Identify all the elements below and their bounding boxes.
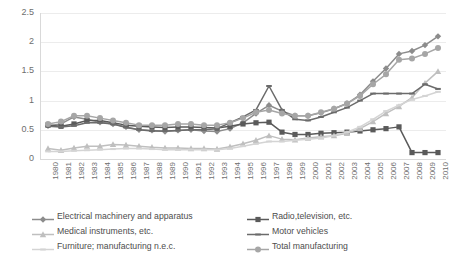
- legend-item[interactable]: Motor vehicles: [247, 226, 328, 237]
- legend-marker-icon: [32, 241, 54, 252]
- legend-item-label: Total manufacturing: [272, 241, 348, 252]
- x-axis-tick-label: 1983: [91, 162, 99, 180]
- legend-marker-icon: [247, 211, 269, 222]
- legend-marker-icon: [32, 211, 54, 222]
- x-axis-tick-label: 1996: [260, 162, 268, 180]
- x-axis-tick-label: 1990: [182, 162, 190, 180]
- x-axis-tick-label: 2008: [416, 162, 424, 180]
- legend-marker-icon: [247, 241, 269, 252]
- x-axis-tick-label: 1986: [130, 162, 138, 180]
- x-axis-tick-label: 1997: [273, 162, 281, 180]
- line-chart: 00.511.522.5 198019811982198319841985198…: [0, 0, 450, 268]
- x-axis-tick-label: 1985: [117, 162, 125, 180]
- legend-item[interactable]: Total manufacturing: [247, 241, 348, 252]
- legend-item-label: Electrical machinery and apparatus: [57, 211, 193, 222]
- legend-marker-icon: [247, 226, 269, 237]
- x-axis-tick-label: 2001: [325, 162, 333, 180]
- x-axis-tick-label: 2004: [364, 162, 372, 180]
- legend-item[interactable]: Furniture; manufacturing n.e.c.: [32, 241, 175, 252]
- legend-item-label: Radio,television, etc.: [272, 211, 352, 222]
- x-axis-tick-label: 1993: [221, 162, 229, 180]
- x-axis-tick-label: 1991: [195, 162, 203, 180]
- legend-item-label: Motor vehicles: [272, 226, 328, 237]
- x-axis-tick-label: 1988: [156, 162, 164, 180]
- x-axis-tick-label: 2000: [312, 162, 320, 180]
- legend-marker-icon: [32, 226, 54, 237]
- legend-item[interactable]: Electrical machinery and apparatus: [32, 211, 193, 222]
- x-axis-tick-label: 1992: [208, 162, 216, 180]
- x-axis-tick-label: 1982: [78, 162, 86, 180]
- legend-item-label: Furniture; manufacturing n.e.c.: [57, 241, 175, 252]
- x-axis-tick-label: 2007: [403, 162, 411, 180]
- x-axis-tick-label: 2006: [390, 162, 398, 180]
- legend-item[interactable]: Radio,television, etc.: [247, 211, 352, 222]
- x-axis-tick-label: 1998: [286, 162, 294, 180]
- legend-item[interactable]: Medical instruments, etc.: [32, 226, 153, 237]
- x-axis-tick-label: 1989: [169, 162, 177, 180]
- x-axis-tick-label: 2005: [377, 162, 385, 180]
- x-axis-tick-label: 1984: [104, 162, 112, 180]
- x-axis-tick-label: 1999: [299, 162, 307, 180]
- legend-item-label: Medical instruments, etc.: [57, 226, 153, 237]
- chart-legend: Electrical machinery and apparatusRadio,…: [32, 211, 442, 261]
- x-axis-tick-label: 1987: [143, 162, 151, 180]
- x-axis-tick-label: 2002: [338, 162, 346, 180]
- x-axis-tick-label: 2009: [429, 162, 437, 180]
- x-axis-tick-label: 1980: [52, 162, 60, 180]
- x-axis-tick-label: 1981: [65, 162, 73, 180]
- x-axis-tick-label: 1995: [247, 162, 255, 180]
- x-axis-tick-label: 2003: [351, 162, 359, 180]
- x-axis-tick-label: 2010: [442, 162, 450, 180]
- x-axis-tick-label: 1994: [234, 162, 242, 180]
